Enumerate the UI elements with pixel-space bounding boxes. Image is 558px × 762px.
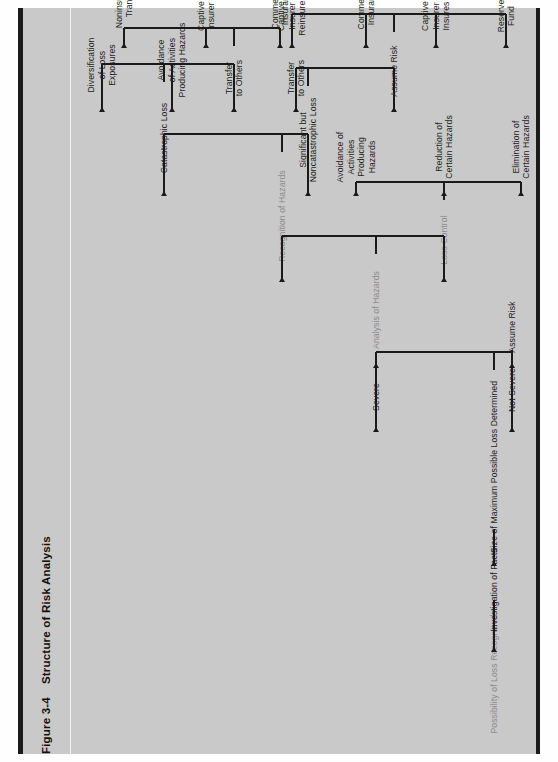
connector-arrowhead [433, 43, 439, 48]
connector-arrowhead [441, 277, 447, 282]
connector-line [296, 67, 394, 69]
connector-arrowhead [203, 43, 209, 48]
connector-line [102, 63, 234, 65]
connector-arrowhead [373, 363, 379, 368]
connector-arrowhead [518, 191, 524, 196]
connector-arrowhead [503, 43, 509, 48]
connector-line [282, 235, 444, 237]
connector-arrowhead [231, 107, 237, 112]
connector-arrowhead [279, 277, 285, 282]
connector-arrowhead [441, 191, 447, 196]
connector-line [295, 68, 297, 112]
connector-arrowhead [169, 107, 175, 112]
connector-arrowhead [491, 647, 497, 652]
connector-arrowhead [121, 43, 127, 48]
connector-line [307, 68, 309, 86]
connector-arrowhead [161, 191, 167, 196]
connector-arrowhead [289, 43, 295, 48]
flowchart-canvas: Possibility of Loss RecognizedInvestigat… [76, 8, 538, 746]
connector-line [233, 28, 235, 46]
figure-caption: Figure 3-4 Structure of Risk Analysis [24, 8, 68, 754]
flow-node-n06: Analysis of Hazards [371, 258, 382, 362]
connector-arrowhead [509, 427, 515, 432]
connector-line [443, 236, 445, 282]
connector-line [164, 133, 308, 135]
connector-line [281, 134, 283, 152]
connector-arrowhead [491, 561, 497, 566]
connector-arrowhead [277, 43, 283, 48]
connector-line [101, 64, 103, 112]
figure-title: Structure of Risk Analysis [40, 536, 52, 684]
figure-number: Figure 3-4 [40, 697, 52, 754]
title-separator [70, 8, 71, 754]
connector-line [493, 600, 495, 652]
connector-line [281, 236, 283, 282]
flow-node-n10: Elimination of Certain Hazards [511, 104, 532, 190]
connector-line [163, 134, 165, 196]
connector-line [171, 64, 173, 112]
connector-arrowhead [353, 191, 359, 196]
page-rule-top [18, 8, 23, 754]
connector-line [307, 134, 309, 196]
connector-arrowhead [391, 107, 397, 112]
connector-line [493, 352, 495, 370]
connector-line [375, 236, 377, 254]
connector-line [376, 351, 512, 353]
connector-line [163, 64, 165, 82]
connector-arrowhead [99, 107, 105, 112]
connector-arrowhead [305, 191, 311, 196]
connector-line [292, 13, 506, 15]
connector-line [393, 14, 395, 32]
flow-node-n12: Avoidance of Activities Producing Hazard… [335, 124, 377, 190]
flow-node-n11: Reduction of Certain Hazards [434, 104, 455, 190]
connector-line [233, 64, 235, 112]
connector-line [356, 181, 521, 183]
connector-arrowhead [373, 427, 379, 432]
connector-arrowhead [293, 107, 299, 112]
connector-line [393, 68, 395, 112]
connector-arrowhead [509, 363, 515, 368]
risk-analysis-flowchart: Possibility of Loss RecognizedInvestigat… [76, 8, 538, 746]
connector-line [124, 27, 280, 29]
connector-arrowhead [363, 43, 369, 48]
